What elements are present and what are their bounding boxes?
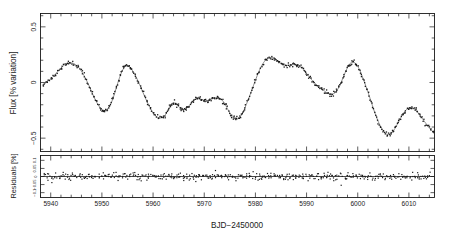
residual-data-point xyxy=(195,177,196,178)
flux-data-point xyxy=(272,59,273,60)
residual-data-point xyxy=(275,175,276,176)
flux-data-point xyxy=(422,121,423,122)
residual-data-point xyxy=(103,172,104,173)
flux-data-point xyxy=(195,99,196,100)
plot-canvas: 0.50−0.5 0.10.050−0.05−0.1 5940595059605… xyxy=(0,0,449,240)
residual-data-point xyxy=(275,176,276,177)
x-tick-labels: 59405950596059705980599060006010 xyxy=(43,200,416,207)
residual-data-point xyxy=(356,176,357,177)
flux-data-point xyxy=(48,79,49,80)
residual-data-point xyxy=(72,174,73,175)
residual-data-point xyxy=(345,178,346,179)
flux-data-point xyxy=(68,61,69,62)
residual-data-point xyxy=(412,176,413,177)
residual-data-point xyxy=(142,175,143,176)
flux-ytick-label: −0.5 xyxy=(30,131,37,144)
residual-data-point xyxy=(303,176,304,177)
flux-data-point xyxy=(137,83,138,84)
flux-data-point xyxy=(428,125,429,126)
flux-data-point xyxy=(354,59,355,60)
residual-data-point xyxy=(332,175,333,176)
residuals-panel xyxy=(41,156,435,198)
residual-data-point xyxy=(65,174,66,175)
residual-data-point xyxy=(338,175,339,176)
residual-data-point xyxy=(217,174,218,175)
residual-data-point xyxy=(47,180,48,181)
residual-data-point xyxy=(212,174,213,175)
residual-data-point xyxy=(150,174,151,175)
residual-data-point xyxy=(300,175,301,176)
light-curve-figure: 0.50−0.5 0.10.050−0.05−0.1 5940595059605… xyxy=(0,0,449,240)
residual-data-point xyxy=(166,179,167,180)
residual-data-point xyxy=(375,178,376,179)
flux-data-point xyxy=(415,109,416,110)
flux-data-point xyxy=(117,84,118,85)
flux-data-point xyxy=(52,78,53,79)
flux-data-point xyxy=(368,95,369,96)
flux-data-point xyxy=(219,98,220,99)
residual-data-point xyxy=(368,175,369,176)
residual-data-point xyxy=(179,176,180,177)
residual-data-point xyxy=(64,175,65,176)
flux-data-point xyxy=(178,105,179,106)
flux-data-point xyxy=(78,66,79,67)
residual-data-point xyxy=(120,175,121,176)
flux-data-point xyxy=(138,81,139,82)
residual-data-point xyxy=(309,178,310,179)
residual-data-point xyxy=(289,173,290,174)
residual-data-point xyxy=(409,177,410,178)
x-tick-label: 5980 xyxy=(248,200,263,207)
flux-data-point xyxy=(68,63,69,64)
residual-data-point xyxy=(427,175,428,176)
flux-data-point xyxy=(64,63,65,64)
residual-data-point xyxy=(410,176,411,177)
flux-data-point xyxy=(328,92,329,93)
flux-data-point xyxy=(353,61,354,62)
residual-data-point xyxy=(283,179,284,180)
flux-data-point xyxy=(201,99,202,100)
flux-data-point xyxy=(373,108,374,109)
flux-data-point xyxy=(319,88,320,89)
flux-data-point xyxy=(114,91,115,92)
flux-data-point xyxy=(240,117,241,118)
flux-data-point xyxy=(92,93,93,94)
residual-data-point xyxy=(76,177,77,178)
residual-data-point xyxy=(350,176,351,177)
flux-data-point xyxy=(325,92,326,93)
residual-data-point xyxy=(117,180,118,181)
flux-data-point xyxy=(343,76,344,77)
residual-data-point xyxy=(191,173,192,174)
residual-data-point xyxy=(394,177,395,178)
residual-data-point xyxy=(329,175,330,176)
flux-data-point xyxy=(204,99,205,100)
residual-data-point xyxy=(122,176,123,177)
residual-data-point xyxy=(49,176,50,177)
residual-data-point xyxy=(80,173,81,174)
flux-data-point xyxy=(144,95,145,96)
residual-data-point xyxy=(321,178,322,179)
flux-data-point xyxy=(150,108,151,109)
flux-data-point xyxy=(61,69,62,70)
residual-data-point xyxy=(336,179,337,180)
flux-data-point xyxy=(221,99,222,100)
residual-data-point xyxy=(148,176,149,177)
residual-data-point xyxy=(171,173,172,174)
flux-data-point xyxy=(181,108,182,109)
x-tick-label: 5940 xyxy=(43,200,58,207)
residual-data-point xyxy=(333,177,334,178)
residual-data-point xyxy=(318,179,319,180)
residual-data-point xyxy=(267,173,268,174)
residual-data-point xyxy=(399,176,400,177)
flux-data-point xyxy=(142,90,143,91)
residual-data-point xyxy=(259,173,260,174)
residual-data-point xyxy=(390,175,391,176)
residual-data-point xyxy=(174,177,175,178)
residual-data-point xyxy=(81,179,82,180)
residual-data-point xyxy=(250,176,251,177)
residual-data-point xyxy=(367,177,368,178)
flux-data-point xyxy=(351,64,352,65)
flux-data-point xyxy=(364,79,365,80)
residual-data-point xyxy=(277,175,278,176)
residual-data-point xyxy=(144,175,145,176)
residual-data-point xyxy=(313,178,314,179)
